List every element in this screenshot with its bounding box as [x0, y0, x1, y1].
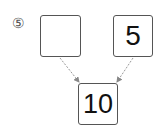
number-box-5: 5	[113, 15, 153, 57]
arrow-left-icon	[60, 58, 79, 82]
answer-box-empty[interactable]	[40, 15, 81, 57]
arrow-right-icon	[117, 58, 133, 82]
number-box-total: 10	[78, 83, 118, 125]
